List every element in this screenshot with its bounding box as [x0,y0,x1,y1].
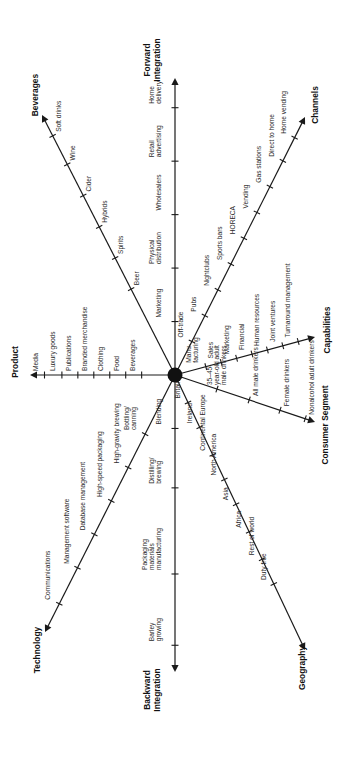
axis-title-line: Beverages [30,73,40,116]
axis-title: Geography [297,646,307,691]
tick-label-line: Beverages [129,339,137,371]
tick-label-line: Blending [155,398,163,424]
tick-label: Beer [133,270,140,285]
tick-label-line: distribution [155,232,162,264]
tick-label-line: Africa [235,511,242,528]
tick-label-line: Wine [69,145,76,160]
tick-label-line: Clothing [97,346,105,371]
tick-label: Barleygrowing [148,618,163,641]
tick-label-line: Food [113,356,120,371]
tick-label: Vending [242,184,250,208]
tick-label-line: manufacturing [155,528,163,570]
axis-backward-integration: BlendingDistilling/brewingPackagingmater… [141,375,179,712]
tick-label: Female drinkers [283,358,290,406]
tick-label: Ireland [186,403,193,423]
axis-title: Beverages [30,73,40,116]
tick-label-line: Turnaround management [284,263,292,337]
tick-label: High-gravity brewing [113,403,121,463]
tick-label-line: Ireland [186,403,193,423]
tick-label: Bottling/canning [123,406,138,430]
arrowhead-icon [30,371,37,378]
tick-label-line: Branded merchandise [81,306,88,371]
tick-label: Branded merchandise [81,306,88,371]
tick-label-line: Home vending [280,91,288,134]
axis-title-line: Technology [32,626,42,673]
tick-label-line: Wholesalers [155,174,162,211]
tick-label: Publications [65,335,72,371]
tick-label: Beverages [129,339,137,371]
tick-label-line: Nonalcohol adult drinkers [308,340,315,415]
tick-label: Food [113,356,120,371]
tick-label-line: Duty free [260,553,268,580]
tick-label-line: Home [148,86,155,104]
tick-label-line: Continental Europe [199,394,207,451]
axis-title-line: Capabilities [322,306,332,353]
axis-title-line: Integration [152,38,162,81]
strategy-axes-diagram: MarketingPhysicaldistributionWholesalers… [0,0,355,768]
arrowhead-icon [171,665,178,672]
tick-label: Soft drinks [55,100,62,132]
tick-label-line: Joint ventures [269,300,276,342]
axis-title: Channels [310,86,320,124]
tick-label: Joint ventures [269,300,276,342]
tick-label-line: Beer [133,270,140,285]
tick-label: Retailadvertising [148,125,163,157]
tick-label: Cider [85,175,92,192]
tick-label-line: Marketing [155,288,163,317]
tick-label: Sports bars [216,226,224,260]
tick-label: Blending [155,398,163,424]
axis-title-line: Backward [142,670,152,710]
axis-geography: BritainIrelandContinental EuropeNorth Am… [174,375,307,690]
tick-label: Homedelivery [148,80,163,103]
axis-product: BeveragesFoodClothingBranded merchandise… [10,306,175,378]
tick-label-line: Spirits [117,235,125,254]
tick-label: All male drinkers [252,346,259,395]
tick-label-line: Rest of world [248,516,255,555]
tick-label-line: Communications [44,550,51,600]
tick-label-line: Direct to home [268,114,275,157]
axis-title-line: Integration [152,668,162,711]
axis-forward-integration: MarketingPhysicaldistributionWholesalers… [142,38,179,375]
tick-label-line: Retail [148,140,155,157]
tick-label: Nightclubs [203,254,211,285]
tick-label: Home vending [280,91,288,134]
axis-line [175,375,302,645]
tick-label: Media [32,353,39,371]
tick-label: Spirits [117,235,125,254]
tick-label: Communications [44,550,51,600]
tick-label: Continental Europe [199,394,207,451]
tick-label-line: Financial [238,323,245,350]
tick-label-line: delivery [155,80,163,103]
tick-label-line: Management software [63,498,71,564]
tick-label-line: Luxury goods [49,331,57,371]
tick-label: Pubs [190,296,197,312]
tick-label: Packagingmaterialsmanufacturing [141,528,163,570]
tick-label-line: facturing [192,337,200,363]
center-hub-icon [168,368,183,383]
axis-title-line: Product [10,346,20,378]
axis-title-line: Geography [297,646,307,691]
tick-label-line: Asia [222,487,229,500]
axis-title-line: Forward [142,43,152,76]
tick-label-line: male drinkers [220,345,227,385]
arrowhead-icon [171,78,178,85]
tick-label-line: Nightclubs [203,254,211,285]
tick-label: Gas stations [255,145,262,182]
tick-label: Database management [79,462,87,531]
tick-label-line: Off-trade [177,311,184,337]
tick-label-line: brewing [155,460,163,483]
tick-label-line: Manu- [185,344,192,363]
axis-title: Technology [32,626,42,673]
tick-label: Luxury goods [49,331,57,371]
tick-label: Financial [238,323,245,350]
tick-label: Human resources [253,293,260,346]
tick-label-line: Vending [242,184,250,208]
tick-label: Distilling/brewing [148,457,163,484]
tick-label: North America [210,433,217,475]
tick-label: Africa [235,511,242,528]
tick-label: Marketing [155,288,163,317]
axis-title: Product [10,346,20,378]
tick-label: Hybrids [101,200,109,223]
tick-label-line: High-speed packaging [96,431,104,497]
axis-title: ForwardIntegration [142,38,162,81]
